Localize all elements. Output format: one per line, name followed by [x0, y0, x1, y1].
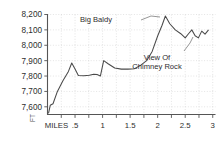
- y-tick-label: 8,000: [22, 41, 43, 50]
- y-tick-label: 8,200: [22, 10, 43, 19]
- annotation-label-big-baldy: Big Baldy: [80, 15, 112, 24]
- y-tick-label: 7,700: [22, 87, 43, 96]
- x-axis-unit-label: MILES: [45, 121, 68, 130]
- x-tick-label: 1.5: [125, 121, 137, 130]
- y-axis-unit-label: FT: [29, 114, 36, 122]
- y-tick-label: 8,100: [22, 26, 43, 35]
- x-tick-label: 2.5: [180, 121, 192, 130]
- y-tick-label: 7,800: [22, 72, 43, 81]
- y-tick-label: 7,900: [22, 57, 43, 66]
- x-tick-label: 1: [100, 121, 104, 130]
- x-tick-label: 3: [211, 121, 215, 130]
- chart-canvas: 7,6007,7007,8007,9008,0008,1008,200 MILE…: [0, 0, 224, 146]
- elevation-profile-chart: 7,6007,7007,8007,9008,0008,1008,200 MILE…: [0, 0, 224, 146]
- x-tick-label: 2: [155, 121, 159, 130]
- y-tick-label: 7,600: [22, 103, 43, 112]
- x-tick-label: .5: [72, 121, 79, 130]
